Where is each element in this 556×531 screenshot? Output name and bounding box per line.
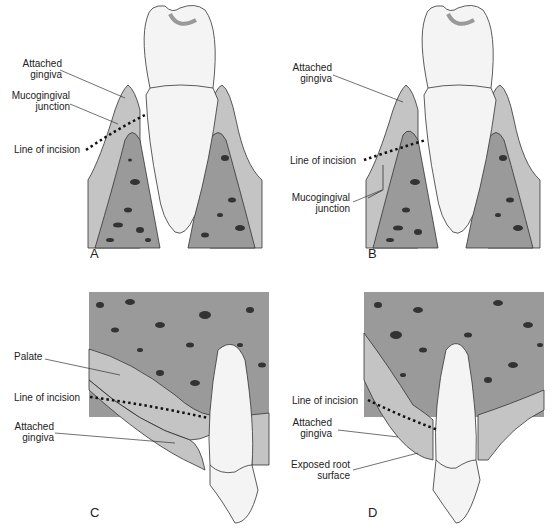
label-line-of-incision: Line of incision <box>14 392 80 403</box>
panel-letter: D <box>368 505 377 520</box>
panel-a: Attached gingiva Mucogingival junction L… <box>0 0 278 265</box>
label-attached-gingiva: Attached gingiva <box>284 417 332 439</box>
label-line-of-incision: Line of incision <box>292 395 358 406</box>
panel-letter: B <box>368 246 377 261</box>
panel-b: Attached gingiva Line of incision Mucogi… <box>278 0 556 265</box>
panel-letter: C <box>90 505 99 520</box>
label-mucogingival-junction: Mucogingival junction <box>284 192 350 214</box>
label-line-of-incision: Line of incision <box>14 144 80 155</box>
panel-c: Palate Line of incision Attached gingiva… <box>0 265 278 530</box>
panel-letter: A <box>90 246 99 261</box>
label-exposed-root-surface: Exposed root surface <box>286 459 350 481</box>
label-mucogingival-junction: Mucogingival junction <box>4 90 70 112</box>
label-palate: Palate <box>14 351 42 362</box>
label-attached-gingiva: Attached gingiva <box>282 62 332 84</box>
label-line-of-incision: Line of incision <box>290 155 356 166</box>
label-attached-gingiva: Attached gingiva <box>6 58 62 80</box>
panel-d: Line of incision Attached gingiva Expose… <box>278 265 556 530</box>
panel-a-illustration <box>0 0 278 265</box>
label-attached-gingiva: Attached gingiva <box>6 421 54 443</box>
panel-b-illustration <box>278 0 556 265</box>
